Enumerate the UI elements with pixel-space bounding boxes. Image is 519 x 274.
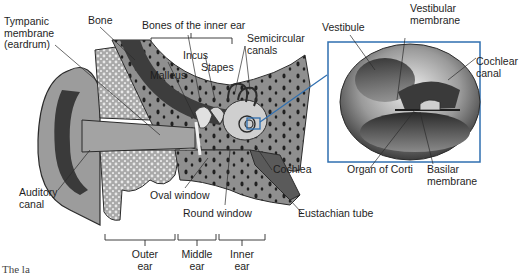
ear-anatomy-diagram: Tympanic membrane (eardrum) Bone Bones o…: [0, 0, 519, 274]
lower-tissue: [100, 150, 180, 220]
label-eustachian-tube: Eustachian tube: [298, 208, 373, 220]
label-line: Cochlear: [476, 56, 518, 68]
inset: [328, 42, 480, 162]
label-line: ear: [225, 261, 259, 273]
label-line: membrane: [427, 176, 477, 188]
label-line: (eardrum): [4, 39, 54, 51]
label-line: Inner: [225, 249, 259, 261]
label-cochlea: Cochlea: [273, 164, 312, 176]
label-middle-ear: Middle ear: [178, 249, 216, 272]
label-outer-ear: Outer ear: [128, 249, 162, 272]
label-line: Basilar: [427, 164, 477, 176]
label-round-window: Round window: [183, 208, 252, 220]
label-line: ear: [128, 261, 162, 273]
label-line: Tympanic: [4, 16, 54, 28]
label-line: Semicircular: [247, 33, 305, 45]
label-line: Auditory: [19, 187, 58, 199]
label-vestibular-membrane: Vestibular membrane: [410, 3, 460, 26]
label-organ-of-corti: Organ of Corti: [347, 164, 413, 176]
caption-partial: The la: [2, 264, 30, 274]
label-tympanic-membrane: Tympanic membrane (eardrum): [4, 16, 54, 51]
label-line: Outer: [128, 249, 162, 261]
label-incus: Incus: [183, 50, 208, 62]
label-cochlear-canal: Cochlear canal: [476, 56, 518, 79]
label-malleus: Malleus: [150, 70, 186, 82]
label-bones-inner-ear: Bones of the inner ear: [142, 20, 245, 32]
label-line: canal: [19, 199, 58, 211]
label-line: canals: [247, 45, 305, 57]
label-line: Vestibular: [410, 3, 460, 15]
label-basilar-membrane: Basilar membrane: [427, 164, 477, 187]
label-oval-window: Oval window: [150, 190, 210, 202]
label-inner-ear: Inner ear: [225, 249, 259, 272]
label-auditory-canal: Auditory canal: [19, 187, 58, 210]
label-bone: Bone: [88, 15, 113, 27]
label-vestibule: Vestibule: [322, 22, 365, 34]
label-line: Middle: [178, 249, 216, 261]
label-stapes: Stapes: [201, 62, 234, 74]
label-semicircular-canals: Semicircular canals: [247, 33, 305, 56]
label-line: membrane: [410, 15, 460, 27]
label-line: ear: [178, 261, 216, 273]
label-line: canal: [476, 68, 518, 80]
